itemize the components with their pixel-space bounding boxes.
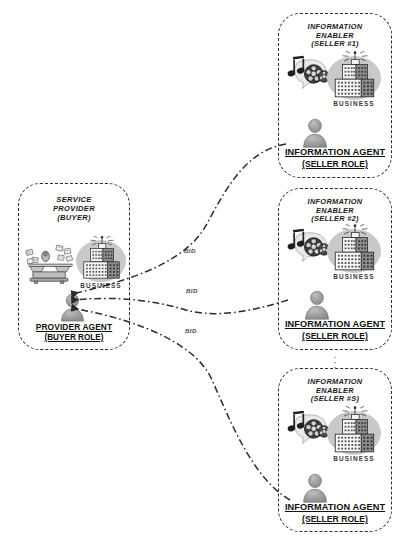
business-building-icon	[329, 222, 381, 274]
diagram-canvas: SERVICE PROVIDER (BUYER) BUSINESS PROVID…	[0, 0, 409, 545]
bid-label-seller-2: BID	[186, 287, 198, 294]
seller-2-business-label: BUSINESS	[323, 273, 385, 280]
seller-1-agent-line1: INFORMATION AGENT	[279, 147, 391, 159]
continuation-ellipsis: . . .	[330, 353, 340, 368]
information-agent-person-icon	[301, 117, 329, 148]
bid-label-seller-1: BID	[184, 247, 196, 254]
buyer-business-graphic: BUSINESS	[73, 226, 129, 294]
seller-2-agent-line2: (SELLER ROLE)	[279, 331, 391, 342]
seller-s-agent-line1: INFORMATION AGENT	[279, 502, 391, 514]
provider-agent-line1: PROVIDER AGENT	[19, 322, 129, 333]
information-enabler-seller-1-box[interactable]: INFORMATION ENABLER (SELLER #1) BUSINESS…	[278, 13, 392, 178]
seller-1-business-label: BUSINESS	[323, 100, 385, 107]
seller-s-agent-line2: (SELLER ROLE)	[279, 514, 391, 525]
buyer-business-label: BUSINESS	[73, 282, 129, 289]
service-provider-title: SERVICE PROVIDER (BUYER)	[19, 196, 129, 223]
seller-s-agent-label: INFORMATION AGENT (SELLER ROLE)	[279, 502, 391, 525]
service-provider-buyer-box[interactable]: SERVICE PROVIDER (BUYER) BUSINESS PROVID…	[18, 183, 130, 350]
seller-s-business-label: BUSINESS	[323, 455, 385, 462]
seller-2-agent-label: INFORMATION AGENT (SELLER ROLE)	[279, 319, 391, 342]
information-agent-person-icon	[301, 472, 329, 503]
seller-1-agent-line2: (SELLER ROLE)	[279, 159, 391, 170]
seller-2-agent-line1: INFORMATION AGENT	[279, 319, 391, 331]
business-building-icon	[329, 404, 381, 456]
seller-2-business-graphic: BUSINESS	[323, 215, 385, 285]
seller-s-business-graphic: BUSINESS	[323, 397, 385, 467]
provider-agent-line2: (BUYER ROLE)	[19, 333, 129, 344]
information-enabler-seller-s-box[interactable]: INFORMATION ENABLER (SELLER #S) BUSINESS…	[278, 368, 392, 532]
seller-1-business-graphic: BUSINESS	[323, 42, 385, 112]
provider-agent-label: PROVIDER AGENT (BUYER ROLE)	[19, 322, 129, 344]
business-building-icon	[78, 234, 126, 282]
business-building-icon	[329, 49, 381, 101]
bid-label-seller-s: BID	[185, 327, 197, 334]
seller-1-agent-label: INFORMATION AGENT (SELLER ROLE)	[279, 147, 391, 170]
information-agent-person-icon	[303, 289, 331, 320]
information-enabler-seller-2-box[interactable]: INFORMATION ENABLER (SELLER #2) BUSINESS…	[278, 188, 392, 350]
provider-agent-person-icon	[59, 292, 86, 322]
